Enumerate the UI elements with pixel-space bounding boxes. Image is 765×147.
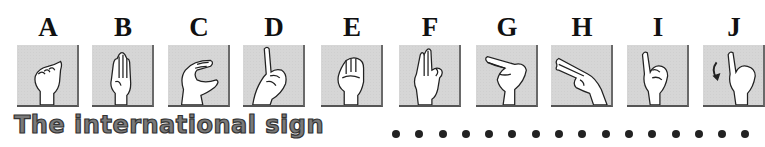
dot <box>578 130 586 138</box>
dot <box>439 130 447 138</box>
dot <box>741 130 749 138</box>
dot <box>695 130 703 138</box>
hand-sign-c-icon <box>168 45 230 107</box>
dot <box>508 130 516 138</box>
letter-i: I <box>627 12 689 42</box>
hand-sign-b-icon <box>92 45 154 107</box>
letter-f: F <box>399 12 461 42</box>
dot <box>602 130 610 138</box>
dot <box>648 130 656 138</box>
letter-a: A <box>17 12 79 42</box>
hand-sign-g-icon <box>476 45 538 107</box>
letter-g: G <box>476 12 538 42</box>
letter-b: B <box>92 12 154 42</box>
dotted-leader <box>392 127 765 141</box>
letter-e: E <box>321 12 383 42</box>
hand-sign-e-icon <box>321 45 383 107</box>
dot <box>462 130 470 138</box>
hand-sign-j-icon <box>703 45 765 107</box>
dot <box>392 130 400 138</box>
dot <box>718 130 726 138</box>
hand-sign-h-icon <box>551 45 613 107</box>
dot <box>485 130 493 138</box>
letter-h: H <box>551 12 613 42</box>
dot <box>415 130 423 138</box>
dot <box>532 130 540 138</box>
letter-j: J <box>703 12 765 42</box>
hand-sign-f-icon <box>399 45 461 107</box>
hand-sign-a-icon <box>17 45 79 107</box>
hand-sign-i-icon <box>627 45 689 107</box>
dot <box>672 130 680 138</box>
dot <box>555 130 563 138</box>
letter-c: C <box>168 12 230 42</box>
letter-d: D <box>243 12 305 42</box>
caption-title: The international sign <box>14 110 324 140</box>
hand-sign-d-icon <box>243 45 305 107</box>
dot <box>625 130 633 138</box>
